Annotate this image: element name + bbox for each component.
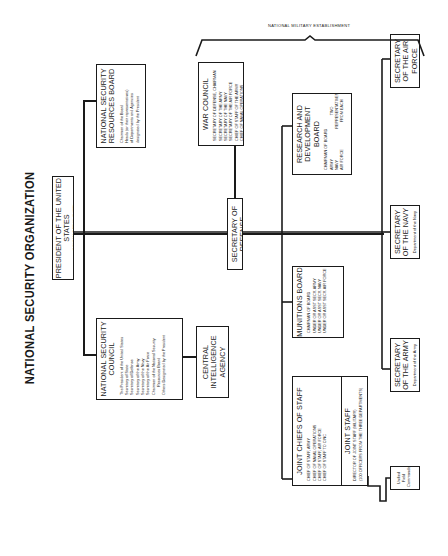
cia-connector bbox=[183, 356, 196, 358]
cia-title: CENTRAL INTELLIGENCE AGENCY bbox=[197, 327, 227, 397]
nsc-members: The President of the United States Secre… bbox=[120, 319, 168, 399]
nsc-title: NATIONAL SECURITY COUNCIL bbox=[97, 319, 117, 399]
joint-staff-section: JOINT STAFF DIRECTOR OF JOINT STAFF (MIL… bbox=[342, 377, 364, 485]
rdb-note: TWO REPRESENTATIVES FROM EACH bbox=[330, 93, 345, 129]
war-council-members: SECRETARY OF DEFENSE, CHAIRMAN SECRETARY… bbox=[213, 63, 244, 145]
president-branch-stem bbox=[74, 233, 84, 235]
nsrb-box[interactable]: NATIONAL SECURITY RESOURCES BOARD Chairm… bbox=[96, 64, 146, 148]
unified-commands-title: Unified Field Commands bbox=[392, 467, 411, 489]
secaf-title: SECRETARY OF THE AIR FORCE bbox=[391, 35, 419, 87]
secnav-subtitle: Department of the Navy bbox=[412, 206, 417, 258]
war-council-member: SECRETARY OF DEFENSE, CHAIRMAN bbox=[213, 67, 218, 141]
munitions-members: CHAIRMAN OF BOARD UNDER OR ASST SECY. AR… bbox=[307, 267, 328, 337]
jcs-title: JOINT CHIEFS OF STAFF bbox=[293, 377, 304, 485]
nsc-connector bbox=[83, 354, 96, 356]
munitions-box[interactable]: MUNITIONS BOARD CHAIRMAN OF BOARD UNDER … bbox=[292, 266, 344, 338]
munitions-member: UNDER OR ASST SECY. AIR FORCE bbox=[323, 271, 328, 333]
secarmy-subtitle: Department of the Army bbox=[412, 339, 417, 391]
cia-box[interactable]: CENTRAL INTELLIGENCE AGENCY Director of … bbox=[196, 326, 229, 398]
nsrb-member: designated by the President bbox=[136, 69, 141, 143]
war-council-member: CHIEF OF NAVAL OPERATIONS bbox=[240, 67, 244, 141]
rdb-box[interactable]: RESEARCH AND DEVELOPMENT BOARD CHAIRMAN … bbox=[292, 93, 352, 175]
secdef-title: SECRETARY OF DEFENSE bbox=[228, 199, 243, 269]
nsc-box[interactable]: NATIONAL SECURITY COUNCIL The President … bbox=[96, 318, 183, 400]
joint-staff-title: JOINT STAFF bbox=[342, 377, 352, 485]
secarmy-title: SECRETARY OF THE ARMY bbox=[391, 339, 411, 391]
president-box[interactable]: PRESIDENT OF THE UNITED STATES (COMMANDE… bbox=[52, 176, 74, 280]
nsrb-connector bbox=[83, 100, 96, 102]
secarmy-box[interactable]: SECRETARY OF THE ARMY Department of the … bbox=[390, 338, 420, 392]
unified-commands-box[interactable]: Unified Field Commands bbox=[390, 466, 420, 490]
war-council-connector bbox=[234, 146, 236, 198]
nme-bracket-label: NATIONAL MILITARY ESTABLISHMENT bbox=[268, 23, 348, 28]
rdb-member: AIR FORCE bbox=[340, 129, 345, 170]
war-council-title: WAR COUNCIL bbox=[199, 63, 210, 145]
president-subtitle: (COMMANDER IN CHIEF) bbox=[72, 177, 74, 279]
nsc-member: Others Designated by the President bbox=[162, 323, 167, 395]
nsrb-title: NATIONAL SECURITY RESOURCES BOARD bbox=[97, 65, 117, 147]
secdef-box[interactable]: SECRETARY OF DEFENSE bbox=[227, 198, 243, 270]
main-axis-line bbox=[74, 233, 75, 235]
org-chart-stage: NATIONAL SECURITY ORGANIZATION PRESIDENT… bbox=[0, 0, 448, 556]
jcs-box[interactable]: JOINT CHIEFS OF STAFF CHIEF OF STAFF, AR… bbox=[292, 376, 368, 486]
rdb-members: CHAIRMAN OF BOARD ARMY NAVY AIR FORCE TW… bbox=[324, 94, 345, 174]
president-branch-line bbox=[83, 102, 85, 356]
chart-title: NATIONAL SECURITY ORGANIZATION bbox=[22, 50, 37, 506]
rdb-title: RESEARCH AND DEVELOPMENT BOARD bbox=[293, 94, 321, 174]
secaf-box[interactable]: SECRETARY OF THE AIR FORCE Department of… bbox=[390, 34, 420, 88]
war-council-box[interactable]: WAR COUNCIL SECRETARY OF DEFENSE, CHAIRM… bbox=[198, 62, 244, 146]
jcs-members: CHIEF OF STAFF, ARMY CHIEF OF NAVAL OPER… bbox=[307, 377, 328, 485]
secnav-title: SECRETARY OF THE NAVY bbox=[391, 206, 411, 258]
jcs-section: JOINT CHIEFS OF STAFF CHIEF OF STAFF, AR… bbox=[293, 377, 341, 485]
nsrb-members: Chairman of the Board Heads (or their re… bbox=[120, 65, 141, 147]
rdb-member: CHAIRMAN OF BOARD bbox=[324, 129, 329, 170]
jcs-member: CHIEF OF STAFF TO CINC bbox=[323, 381, 328, 481]
president-title: PRESIDENT OF THE UNITED STATES bbox=[53, 177, 72, 279]
joint-staff-members: DIRECTOR OF JOINT STAFF (MILITARY) (100 … bbox=[353, 377, 364, 485]
joint-staff-member: (100 OFFICERS FROM THE THREE DEPARTMENTS… bbox=[359, 381, 364, 481]
munitions-title: MUNITIONS BOARD bbox=[293, 267, 304, 337]
secnav-box[interactable]: SECRETARY OF THE NAVY Department of the … bbox=[390, 205, 420, 259]
